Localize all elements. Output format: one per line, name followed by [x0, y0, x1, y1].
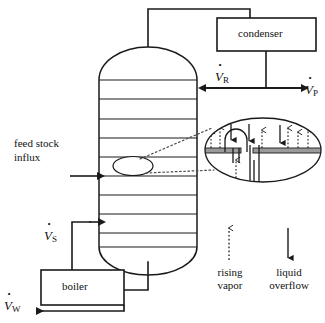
tray-detail-inset [203, 118, 323, 188]
feed-stock-label-line2: influx [14, 151, 40, 163]
waste-outlet-arrow [36, 305, 124, 311]
figure-canvas: condenser boiler feed stock influx VR VP… [0, 0, 325, 323]
boiler-label: boiler [62, 280, 88, 292]
tray-plate [203, 148, 323, 153]
waste-symbol: V [4, 298, 12, 313]
steam-flow-label: VS [44, 226, 57, 244]
feed-stock-label-line1: feed stock [14, 137, 59, 149]
legend-rising-vapor-line2: vapor [204, 279, 256, 292]
reflux-flow-label: VR [215, 67, 229, 85]
boiler-vapor-return-pipe [72, 222, 98, 270]
product-subscript: P [313, 88, 318, 98]
condenser-label: condenser [238, 27, 283, 39]
legend-liquid-overflow-line1: liquid [257, 266, 321, 279]
reflux-symbol: V [215, 69, 223, 84]
waste-flow-label: VW [4, 296, 20, 314]
steam-subscript: S [52, 234, 57, 244]
legend-liquid-overflow-line2: overflow [257, 279, 321, 292]
steam-symbol: V [44, 228, 52, 243]
waste-subscript: W [12, 304, 21, 314]
bubble-cap [225, 129, 247, 163]
legend-rising-vapor-line1: rising [204, 266, 256, 279]
product-flow-label: VP [305, 80, 318, 98]
product-symbol: V [305, 82, 313, 97]
reflux-subscript: R [223, 75, 229, 85]
